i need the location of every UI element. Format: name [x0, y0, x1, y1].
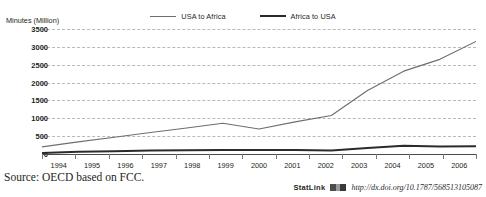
- x-axis-tick: [109, 154, 110, 159]
- x-axis-tick: [276, 154, 277, 159]
- legend-item-africa-to-usa: Africa to USA: [260, 12, 336, 21]
- x-axis-tick: [42, 154, 43, 159]
- x-axis-tick-labels: 1994199519961997199819992000200120022003…: [42, 161, 476, 171]
- x-axis-tick: [409, 154, 410, 159]
- x-axis-tick: [342, 154, 343, 159]
- x-axis-tick: [376, 154, 377, 159]
- x-axis-tick-label: 1996: [117, 161, 133, 170]
- x-axis-tick-label: 1997: [151, 161, 167, 170]
- x-axis-tick-label: 1995: [84, 161, 100, 170]
- y-axis-tick-label: 2500: [0, 61, 48, 70]
- legend-line-icon-usa-to-africa: [150, 16, 176, 17]
- y-axis-tick-label: 3500: [0, 25, 48, 34]
- x-axis-tick-label: 1994: [51, 161, 67, 170]
- y-axis-tick-label: 500: [0, 132, 48, 141]
- legend-label-usa-to-africa: USA to Africa: [181, 12, 225, 21]
- x-axis-tick: [176, 154, 177, 159]
- legend-label-africa-to-usa: Africa to USA: [291, 12, 336, 21]
- x-axis-tick: [242, 154, 243, 159]
- statlink-barcode-icon: [330, 184, 346, 191]
- x-axis-tick: [443, 154, 444, 159]
- x-axis-tick: [476, 154, 477, 159]
- y-axis-tick-label: 0: [0, 150, 48, 159]
- y-axis-tick-label: 1000: [0, 114, 48, 123]
- x-axis-ticks: [42, 154, 476, 159]
- y-axis-tick-label: 2000: [0, 79, 48, 88]
- x-axis-tick-label: 2000: [251, 161, 267, 170]
- x-axis-tick-label: 1999: [217, 161, 233, 170]
- statlink-label: StatLink: [293, 183, 325, 192]
- series-line: [42, 146, 476, 153]
- legend-line-icon-africa-to-usa: [260, 15, 286, 17]
- series-line: [42, 42, 476, 147]
- x-axis-tick-label: 2003: [351, 161, 367, 170]
- x-axis-tick-label: 2004: [384, 161, 400, 170]
- x-axis-tick: [209, 154, 210, 159]
- statlink-url[interactable]: http://dx.doi.org/10.1787/568513105087: [351, 183, 482, 192]
- x-axis-tick-label: 2006: [451, 161, 467, 170]
- x-axis-tick-label: 2002: [318, 161, 334, 170]
- x-axis-tick: [309, 154, 310, 159]
- x-axis-tick-label: 1998: [184, 161, 200, 170]
- x-axis-tick: [142, 154, 143, 159]
- x-axis-tick-label: 2001: [284, 161, 300, 170]
- x-axis-tick-label: 2005: [418, 161, 434, 170]
- statlink-footer[interactable]: StatLink http://dx.doi.org/10.1787/56851…: [293, 183, 482, 192]
- cropped-caption-remnant: [0, 0, 486, 7]
- x-axis-tick: [75, 154, 76, 159]
- y-axis-title: Minutes (Million): [6, 16, 59, 25]
- series-lines: [42, 29, 476, 154]
- y-axis-tick-label: 1500: [0, 96, 48, 105]
- plot-area: [42, 29, 476, 154]
- y-axis-tick-label: 3000: [0, 43, 48, 52]
- legend-item-usa-to-africa: USA to Africa: [150, 12, 225, 21]
- chart-legend: USA to Africa Africa to USA: [0, 10, 486, 22]
- source-note: Source: OECD based on FCC.: [4, 171, 144, 183]
